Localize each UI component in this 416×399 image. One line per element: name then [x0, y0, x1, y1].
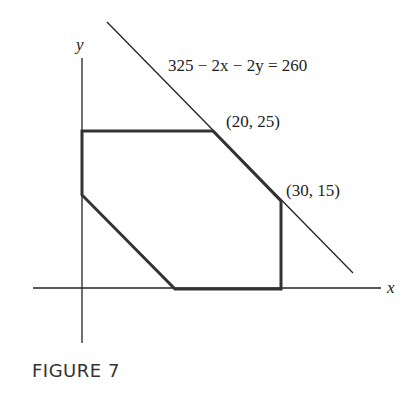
x-axis-label: x: [386, 278, 395, 297]
constraint-equation-label: 325 − 2x − 2y = 260: [168, 56, 307, 75]
vertex-label-20-25: (20, 25): [226, 112, 280, 131]
vertex-label-30-15: (30, 15): [286, 181, 340, 200]
figure-caption: FIGURE 7: [32, 360, 120, 381]
feasible-region-diagram: y x 325 − 2x − 2y = 260 (20, 25) (30, 15…: [0, 0, 416, 399]
feasible-region-polygon: [82, 131, 281, 289]
y-axis-label: y: [74, 35, 84, 54]
